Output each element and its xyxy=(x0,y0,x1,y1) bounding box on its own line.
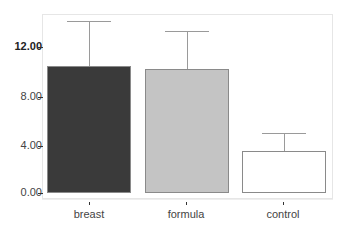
error-bar-control xyxy=(284,133,285,151)
x-tick-label-formula: formula xyxy=(146,208,226,220)
y-tick-label-8: 8.00 xyxy=(0,90,42,102)
x-axis-line xyxy=(42,199,333,200)
x-tick-mark xyxy=(283,202,284,205)
x-tick-mark xyxy=(186,202,187,205)
x-tick-label-breast: breast xyxy=(49,208,129,220)
bar-breast xyxy=(47,66,131,193)
y-tick-mark xyxy=(38,97,43,98)
x-tick-label-control: control xyxy=(243,208,323,220)
bar-formula xyxy=(145,69,229,193)
bar-chart: 12.00 8.00 4.00 0.00 breast formula cont… xyxy=(0,0,349,235)
y-tick-mark xyxy=(38,146,43,147)
y-tick-label-4: 4.00 xyxy=(0,139,42,151)
error-bar-formula xyxy=(187,31,188,69)
y-tick-mark xyxy=(38,193,43,194)
error-cap-formula xyxy=(165,31,209,32)
error-bar-breast xyxy=(89,21,90,67)
y-tick-mark xyxy=(38,47,43,48)
error-cap-control xyxy=(262,133,306,134)
bar-control xyxy=(242,151,326,193)
y-tick-label-12: 12.00 xyxy=(0,40,42,52)
y-tick-label-0: 0.00 xyxy=(0,186,42,198)
error-cap-breast xyxy=(67,21,111,22)
x-tick-mark xyxy=(89,202,90,205)
